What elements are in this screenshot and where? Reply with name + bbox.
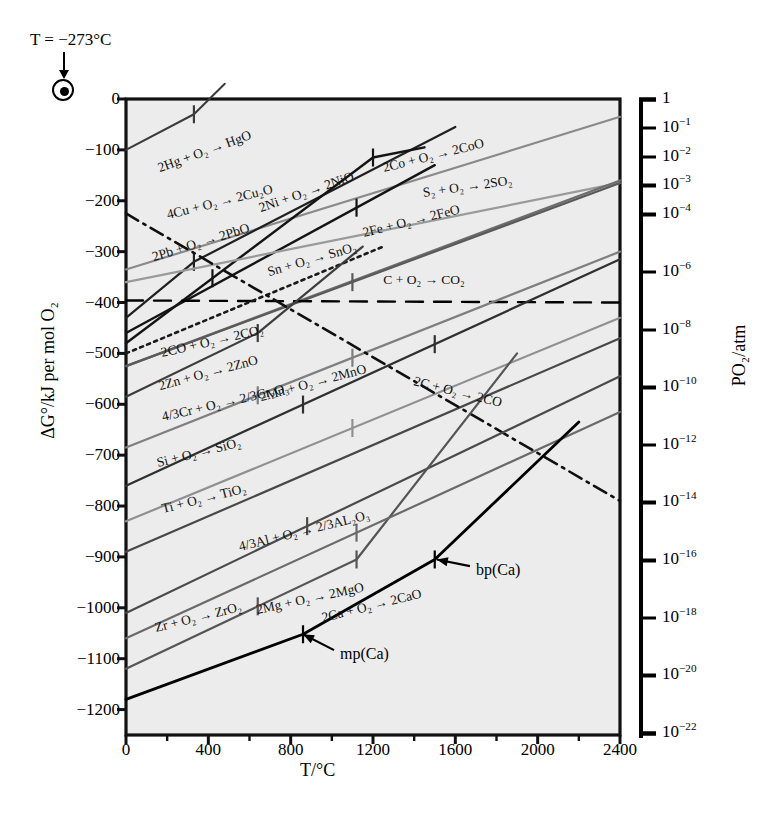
callout-bp-ca: bp(Ca) <box>476 561 520 579</box>
ellingham-diagram-figure: T = −273°C ΔG°/kJ per mol O₂ T/°C PO₂/at… <box>0 0 777 825</box>
plot-canvas <box>0 0 777 825</box>
reaction-label: C + O₂ → CO₂ <box>383 272 465 288</box>
callout-mp-ca: mp(Ca) <box>340 645 389 663</box>
